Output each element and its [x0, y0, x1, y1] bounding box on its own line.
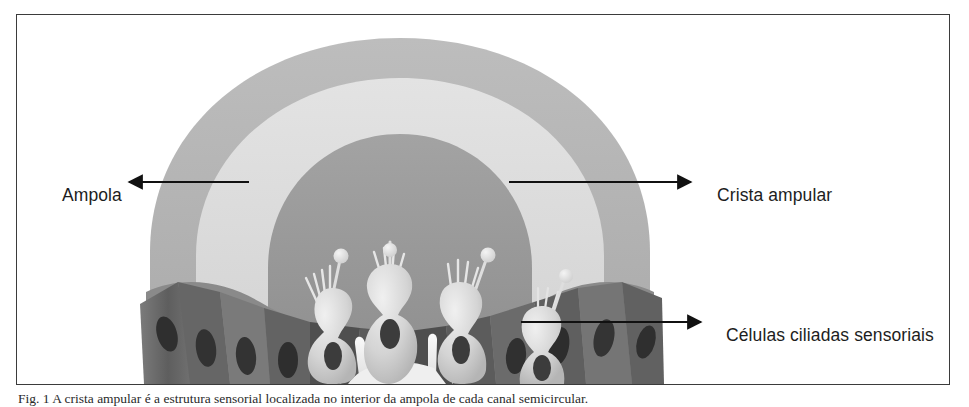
- figure-frame: Ampola Crista ampular Células ciliadas s…: [16, 14, 950, 385]
- kinocilium-bulb: [559, 269, 573, 283]
- kinocilium-bulb: [481, 248, 496, 263]
- kinocilium-bulb: [334, 249, 349, 264]
- callout-label-celulas-ciliadas-sensoriais: Células ciliadas sensoriais: [726, 327, 934, 345]
- crista-ampularis-illustration: [134, 16, 667, 384]
- hair-cell-nucleus: [533, 355, 551, 381]
- kinocilium-bulb: [383, 243, 397, 257]
- callout-label-crista-ampular: Crista ampular: [717, 187, 832, 205]
- supporting-cell-nucleus: [278, 342, 298, 378]
- illustration-svg: [134, 16, 667, 384]
- figure-caption: Fig. 1 A crista ampular é a estrutura se…: [18, 391, 938, 407]
- hair-cell-nucleus: [380, 319, 400, 349]
- hair-cell-nucleus: [452, 336, 470, 364]
- callout-label-ampola: Ampola: [62, 187, 122, 205]
- illustration-content: [134, 16, 667, 384]
- hair-cell-nucleus: [324, 342, 342, 370]
